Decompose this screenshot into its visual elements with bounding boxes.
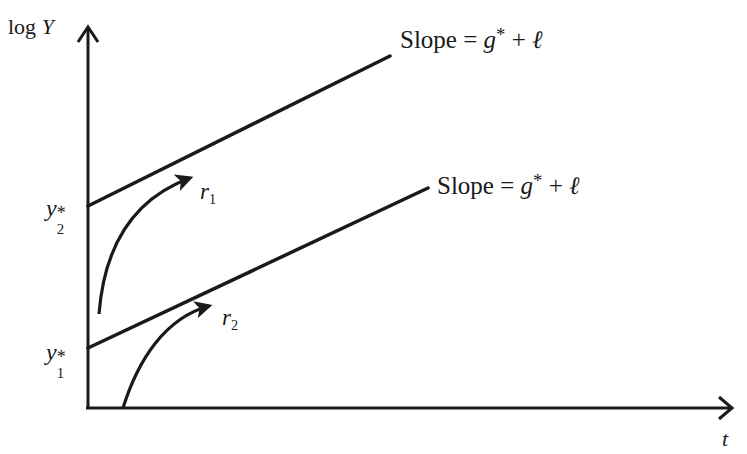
growth-diagram <box>0 0 747 454</box>
r1-var: r <box>200 179 209 204</box>
lower-slope-eq: = <box>494 172 521 199</box>
x-axis <box>86 397 732 419</box>
upper-slope-ell: ℓ <box>532 26 542 53</box>
upper-slope-prefix: Slope <box>400 26 457 53</box>
r2-curved-arrow <box>123 306 209 408</box>
upper-slope-g: g <box>484 26 497 53</box>
lower-slope-g: g <box>521 172 534 199</box>
y1-sub: 1 <box>57 366 64 381</box>
r1-label: r1 <box>200 180 216 206</box>
upper-growth-line <box>88 56 390 206</box>
y2-star-label: y*2 <box>46 196 69 220</box>
y2-var: y <box>46 195 57 221</box>
upper-slope-label: Slope = g* + ℓ <box>400 26 542 52</box>
y2-sub: 2 <box>57 222 64 237</box>
lower-slope-label: Slope = g* + ℓ <box>437 172 579 198</box>
lower-slope-ell: ℓ <box>569 172 579 199</box>
y-axis <box>78 27 98 409</box>
r2-var: r <box>222 305 231 330</box>
y1-var: y <box>46 339 57 365</box>
r1-curved-arrow <box>99 178 190 314</box>
y1-star-label: y*1 <box>46 340 69 364</box>
lower-slope-plus: + <box>542 172 569 199</box>
upper-slope-plus: + <box>505 26 532 53</box>
lower-slope-prefix: Slope <box>437 172 494 199</box>
r2-sub: 2 <box>231 317 238 333</box>
y2-star: * <box>57 204 66 222</box>
r1-sub: 1 <box>209 191 216 207</box>
y-axis-label-var: Y <box>42 14 54 39</box>
x-axis-label: t <box>722 428 728 450</box>
y1-star: * <box>57 348 66 366</box>
r2-label: r2 <box>222 306 238 332</box>
upper-slope-eq: = <box>457 26 484 53</box>
y-axis-label-log: log <box>8 14 36 39</box>
y-axis-label: log Y <box>8 16 54 38</box>
